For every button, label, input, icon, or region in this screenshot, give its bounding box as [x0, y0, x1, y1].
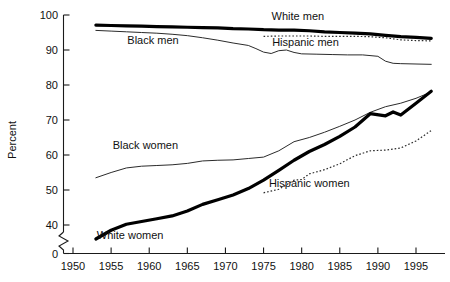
x-tick-label: 1955 [99, 260, 123, 272]
x-tick-label: 1995 [404, 260, 428, 272]
series-line-white-women [96, 91, 431, 239]
y-tick-label: 70 [46, 114, 58, 126]
x-tick-label: 1970 [213, 260, 237, 272]
x-tick-label: 1975 [251, 260, 275, 272]
x-tick-label: 1990 [366, 260, 390, 272]
y-tick-label: 90 [46, 44, 58, 56]
series-line-black-women [96, 92, 431, 178]
x-tick-label: 1985 [328, 260, 352, 272]
line-chart: 0405060708090100 19501955196019651970197… [0, 0, 450, 282]
series-label-black-women: Black women [113, 139, 178, 151]
y-axis-break-zigzag [59, 232, 68, 253]
series-label-black-men: Black men [127, 34, 178, 46]
x-tick-label: 1960 [137, 260, 161, 272]
y-tick-label: 100 [40, 9, 58, 21]
x-tick-marks [73, 248, 416, 254]
x-tick-label: 1950 [61, 260, 85, 272]
data-series-group [96, 25, 431, 239]
x-axis: 1950195519601965197019751980198519901995 [61, 248, 445, 273]
chart-figure: 0405060708090100 19501955196019651970197… [0, 0, 450, 282]
series-label-hispanic-men: Hispanic men [272, 36, 339, 48]
series-label-white-women: White women [97, 229, 164, 241]
x-tick-label: 1980 [289, 260, 313, 272]
series-label-hispanic-women: Hispanic women [269, 177, 350, 189]
x-tick-label: 1965 [175, 260, 199, 272]
y-tick-label: 60 [46, 149, 58, 161]
y-tick-marks [64, 15, 70, 254]
x-tick-labels: 1950195519601965197019751980198519901995 [61, 260, 428, 272]
y-axis-title: Percent [6, 121, 18, 159]
y-tick-labels: 0405060708090100 [40, 9, 58, 260]
series-label-white-men: White men [272, 10, 325, 22]
y-tick-label: 80 [46, 79, 58, 91]
y-axis: 0405060708090100 [40, 9, 70, 260]
series-label-group: White menBlack menHispanic menBlack wome… [97, 10, 350, 241]
y-tick-label: 40 [46, 219, 58, 231]
y-tick-label: 50 [46, 184, 58, 196]
y-tick-label: 0 [52, 248, 58, 260]
